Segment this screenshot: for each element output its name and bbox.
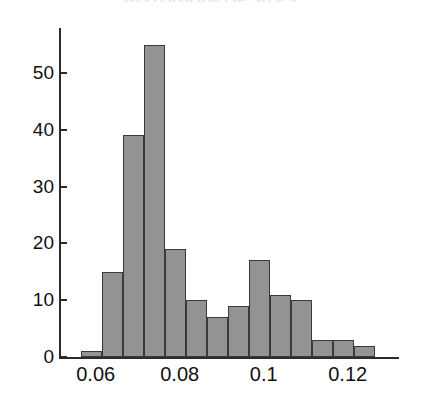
y-tick-label: 30: [6, 177, 54, 196]
y-tick: 20: [0, 243, 54, 244]
histogram-bar: [165, 249, 186, 357]
x-tick-label: 0.06: [76, 364, 115, 384]
histogram-bar: [312, 340, 333, 357]
histogram-bar: [186, 300, 207, 357]
histogram-bar: [81, 351, 102, 357]
y-tick: 30: [0, 187, 54, 188]
y-tick-label: 40: [6, 120, 54, 139]
histogram-figure: HISTOGRAM OF SIZES 01020304050 0.060.080…: [0, 0, 421, 408]
histogram-bar: [291, 300, 312, 357]
histogram-bar: [249, 260, 270, 357]
y-tick-label: 50: [6, 63, 54, 82]
chart-title: HISTOGRAM OF SIZES: [0, 0, 421, 2]
y-tick: 0: [0, 357, 54, 358]
histogram-bar: [102, 272, 123, 357]
histogram-bar: [228, 306, 249, 357]
x-tick-label: 0.12: [328, 364, 367, 384]
histogram-bar: [144, 45, 165, 357]
histogram-bar: [207, 317, 228, 357]
x-axis-line: [59, 357, 399, 359]
y-tick: 10: [0, 300, 54, 301]
y-tick: 50: [0, 73, 54, 74]
y-tick-label: 0: [6, 347, 54, 366]
histogram-bar: [333, 340, 354, 357]
y-tick-label: 20: [6, 233, 54, 252]
x-tick-label: 0.1: [250, 364, 278, 384]
histogram-bar: [270, 295, 291, 357]
histogram-bar: [123, 135, 144, 357]
y-tick-label: 10: [6, 290, 54, 309]
y-tick: 40: [0, 130, 54, 131]
x-tick-label: 0.08: [160, 364, 199, 384]
histogram-bar: [354, 346, 375, 357]
bars-layer: [60, 28, 400, 357]
